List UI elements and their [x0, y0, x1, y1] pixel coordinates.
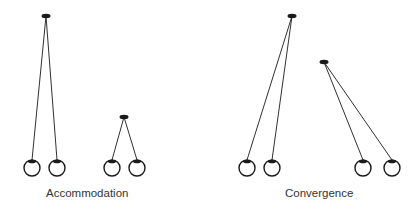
- accommodation-convergence-diagram: [0, 0, 416, 210]
- line-of-sight: [324, 62, 363, 160]
- lens-icon: [53, 160, 61, 164]
- line-of-sight: [124, 117, 137, 160]
- target-point-icon: [120, 115, 129, 119]
- target-point-icon: [320, 60, 329, 64]
- line-of-sight: [46, 16, 57, 160]
- line-of-sight: [324, 62, 392, 160]
- lens-icon: [388, 160, 396, 164]
- line-of-sight: [247, 16, 292, 160]
- convergence-label: Convergence: [285, 187, 353, 199]
- lens-icon: [243, 160, 251, 164]
- line-of-sight: [272, 16, 292, 160]
- lens-icon: [268, 160, 276, 164]
- target-point-icon: [42, 14, 51, 18]
- target-point-icon: [288, 14, 297, 18]
- lens-icon: [359, 160, 367, 164]
- lens-icon: [108, 160, 116, 164]
- accommodation-label: Accommodation: [46, 187, 128, 199]
- line-of-sight: [32, 16, 46, 160]
- lens-icon: [133, 160, 141, 164]
- line-of-sight: [112, 117, 124, 160]
- lens-icon: [28, 160, 36, 164]
